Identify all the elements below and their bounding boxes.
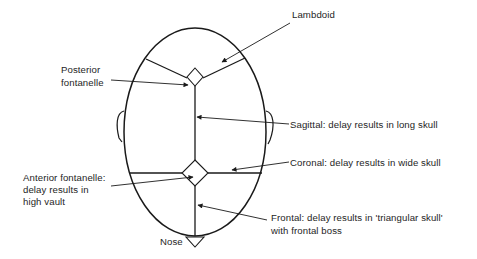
label-nose: Nose: [160, 236, 183, 248]
label-frontal-line1: Frontal: delay results in 'triangular sk…: [271, 212, 443, 224]
label-posterior-fontanelle-line1: Posterior: [61, 64, 100, 76]
label-posterior-fontanelle-line2: fontanelle: [61, 77, 104, 89]
label-frontal-line2: with frontal boss: [271, 225, 342, 237]
label-lambdoid: Lambdoid: [292, 9, 335, 21]
right-ear: [266, 111, 273, 144]
label-anterior-fontanelle-line3: high vault: [23, 196, 65, 208]
label-anterior-fontanelle-line1: Anterior fontanelle:: [23, 172, 106, 184]
nose-marker: [186, 237, 204, 247]
label-anterior-fontanelle-line2: delay results in: [23, 184, 89, 196]
label-coronal: Coronal: delay results in wide skull: [290, 157, 441, 169]
left-ear: [117, 111, 124, 142]
label-sagittal: Sagittal: delay results in long skull: [290, 119, 438, 131]
